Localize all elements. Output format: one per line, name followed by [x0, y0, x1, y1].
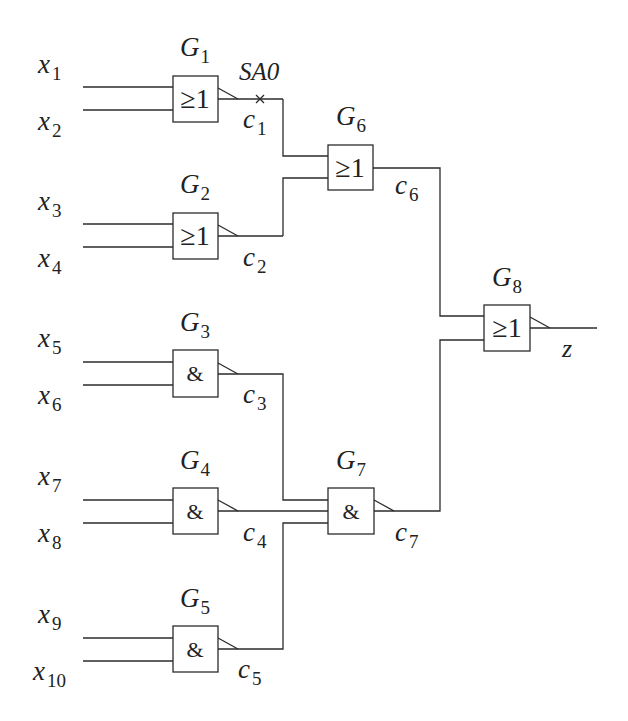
gate-g4: G4 & c4 — [173, 445, 328, 552]
gate-g5: G5 & c5 — [173, 523, 328, 689]
gate-symbol-g7: & — [342, 499, 359, 524]
input-labels: x1 x2 x3 x4 x5 x6 x7 x8 x9 x10 — [32, 49, 66, 691]
input-label-x1: x1 — [37, 49, 61, 84]
input-label-x6: x6 — [37, 380, 61, 415]
gate-g6: G6 ≥1 c6 — [283, 99, 484, 316]
gate-symbol-g8: ≥1 — [492, 312, 521, 343]
wire-c5 — [218, 523, 328, 649]
logic-circuit-diagram: x1 x2 x3 x4 x5 x6 x7 x8 x9 x10 G1 ≥1 SA0 — [0, 0, 628, 721]
gate-g7: G7 & c7 — [328, 340, 484, 552]
gate-symbol-g1: ≥1 — [180, 83, 209, 114]
gate-symbol-g4: & — [186, 499, 203, 524]
output-label-z: z — [561, 334, 572, 363]
negation-tick-g7 — [374, 500, 394, 511]
input-label-x3: x3 — [37, 186, 61, 221]
gate-g8: G8 ≥1 z — [484, 262, 597, 363]
signal-label-c4: c4 — [243, 517, 267, 552]
gate-label-g5: G5 — [180, 583, 210, 618]
input-label-x8: x8 — [37, 518, 61, 553]
negation-tick-g2 — [218, 225, 238, 236]
signal-label-c6: c6 — [395, 170, 418, 205]
input-label-x5: x5 — [37, 323, 61, 358]
wire-c2-to-g6 — [283, 178, 328, 236]
gate-label-g4: G4 — [180, 445, 211, 480]
signal-label-c2: c2 — [243, 242, 266, 277]
signal-label-c5: c5 — [238, 654, 261, 689]
gate-g2: G2 ≥1 c2 — [173, 169, 283, 277]
negation-tick-g5 — [218, 638, 238, 649]
wire-c3 — [218, 374, 328, 500]
negation-tick-g1 — [218, 88, 238, 99]
negation-tick-g3 — [218, 363, 238, 374]
input-label-x10: x10 — [32, 656, 66, 691]
signal-label-c1: c1 — [243, 104, 266, 139]
negation-tick-g4 — [218, 500, 238, 511]
gate-g1: G1 ≥1 SA0 c1 — [173, 32, 283, 139]
gate-label-g3: G3 — [180, 307, 210, 342]
fault-label-sa0: SA0 — [239, 58, 280, 85]
input-label-x9: x9 — [37, 599, 61, 634]
gate-symbol-g2: ≥1 — [180, 220, 209, 251]
input-label-x2: x2 — [37, 106, 61, 141]
wire-c1-to-g6 — [283, 99, 328, 156]
gate-symbol-g6: ≥1 — [335, 152, 364, 183]
gate-label-g2: G2 — [180, 169, 210, 204]
gate-label-g7: G7 — [336, 445, 366, 480]
gate-label-g6: G6 — [336, 101, 366, 136]
wire-c7 — [374, 340, 484, 511]
signal-label-c7: c7 — [395, 517, 418, 552]
input-label-x7: x7 — [37, 461, 61, 496]
gate-label-g8: G8 — [492, 262, 522, 297]
negation-tick-g8 — [530, 317, 550, 328]
input-wires — [83, 87, 173, 661]
gate-symbol-g3: & — [186, 361, 203, 386]
signal-label-c3: c3 — [243, 379, 266, 414]
gate-label-g1: G1 — [180, 32, 210, 67]
input-label-x4: x4 — [37, 243, 62, 278]
gate-symbol-g5: & — [186, 637, 203, 662]
wire-c6 — [373, 168, 484, 316]
